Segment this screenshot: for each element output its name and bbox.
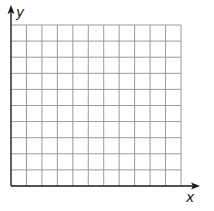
y-axis-label: y [15, 4, 25, 20]
x-axis-label: x [185, 189, 195, 205]
grid-lines [11, 25, 181, 186]
coordinate-grid: y x [0, 0, 214, 211]
y-axis [8, 5, 15, 186]
x-axis [11, 183, 200, 190]
